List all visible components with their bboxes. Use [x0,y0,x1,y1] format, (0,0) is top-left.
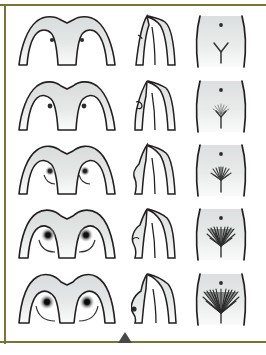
nipple-profile [131,306,136,311]
stage-2-profile-figure [131,78,181,136]
stage-1-profile-figure [131,13,181,71]
frame-rule-left [4,4,6,344]
stage-1-profile-cell [126,10,186,74]
stage-5-frontal-cell [8,268,126,332]
stage-4-profile-cell [126,203,186,267]
stage-4-profile-figure [131,206,181,264]
nipple-right [82,103,87,108]
stage-5-profile-figure [131,271,181,329]
stage-1-pubic-figure [190,13,252,71]
stage-5-profile-cell [126,268,186,332]
stage-3-profile-figure [131,142,181,200]
stage-2-pubic-cell [186,74,256,138]
page-marker-triangle-icon [118,332,132,343]
stage-2-pubic-figure [190,78,252,136]
stage-3-profile-cell [126,139,186,203]
stage-5-pubic-figure [190,271,252,329]
navel-dot [219,88,223,92]
navel-dot [219,281,223,285]
stage-3-pubic-figure [190,142,252,200]
stage-5-pubic-cell [186,268,256,332]
frame-rule-bottom [0,341,266,343]
stage-2-profile-cell [126,74,186,138]
nipple-left [48,103,53,108]
stage-4-pubic-figure [190,206,252,264]
stage-3-frontal-cell [8,139,126,203]
navel-dot [219,216,223,220]
stage-4-frontal-cell [8,203,126,267]
navel-dot [219,23,223,27]
stage-3-pubic-cell [186,139,256,203]
navel-dot [219,152,223,156]
stage-3-frontal-figure [11,142,123,200]
stage-1-pubic-cell [186,10,256,74]
stage-4-frontal-figure [11,206,123,264]
nipple-right [80,38,84,42]
frame-rule-top [0,4,266,6]
stage-4-pubic-cell [186,203,256,267]
stage-2-frontal-cell [8,74,126,138]
stage-5-frontal-figure [11,271,123,329]
stage-1-frontal-figure [11,13,123,71]
stage-grid [8,10,260,332]
illustration-page [0,0,266,355]
stage-1-frontal-cell [8,10,126,74]
stage-2-frontal-figure [11,78,123,136]
nipple-left [50,38,54,42]
